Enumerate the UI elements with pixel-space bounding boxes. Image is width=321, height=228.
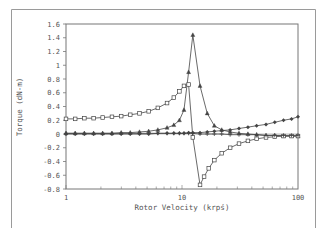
y-tick-label: 0.4 bbox=[47, 103, 60, 111]
plot-area bbox=[66, 24, 298, 189]
y-tick-label: 0.8 bbox=[47, 76, 60, 84]
torque-vs-velocity-chart: 1.61.41.210.80.60.40.20-0.2-0.4-0.6-0.8 … bbox=[0, 0, 321, 228]
y-axis-title: Torque (dN-m) bbox=[15, 78, 24, 137]
y-tick-label: 0.2 bbox=[47, 117, 60, 125]
y-tick-label: 0.6 bbox=[47, 89, 60, 97]
y-tick-label: 1 bbox=[56, 62, 60, 70]
y-tick-label: -0.2 bbox=[43, 144, 60, 152]
y-tick-label: 1.2 bbox=[47, 48, 60, 56]
x-tick-label: 1 bbox=[64, 194, 68, 202]
x-tick-label: 100 bbox=[292, 194, 305, 202]
x-axis-ticks: 110100 bbox=[64, 24, 304, 202]
y-tick-label: -0.8 bbox=[43, 186, 60, 194]
x-axis-title: Rotor Velocity (krpś) bbox=[135, 203, 230, 212]
series-layer bbox=[64, 33, 300, 187]
y-tick-label: 0 bbox=[56, 131, 60, 139]
square-series bbox=[64, 83, 300, 187]
y-axis-ticks: 1.61.41.210.80.60.40.20-0.2-0.4-0.6-0.8 bbox=[43, 21, 66, 194]
y-tick-label: 1.6 bbox=[47, 21, 60, 29]
y-tick-label: -0.4 bbox=[43, 158, 60, 166]
x-tick-label: 10 bbox=[178, 194, 186, 202]
y-tick-label: -0.6 bbox=[43, 172, 60, 180]
y-tick-label: 1.4 bbox=[47, 34, 60, 42]
